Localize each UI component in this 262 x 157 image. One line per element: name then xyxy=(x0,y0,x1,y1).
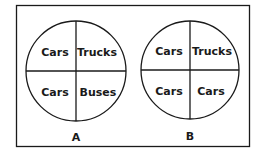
quadrant-b-top-right: Trucks xyxy=(192,45,232,58)
quadrant-a-bottom-left: Cars xyxy=(41,86,69,99)
quadrant-b-bottom-right: Cars xyxy=(197,85,225,98)
diagram-canvas: Cars Trucks Cars Buses A Cars Trucks Car… xyxy=(0,0,262,157)
caption-b: B xyxy=(186,130,194,143)
quadrant-b-bottom-left: Cars xyxy=(155,85,183,98)
quadrant-a-top-left: Cars xyxy=(41,46,69,59)
quadrant-a-bottom-right: Buses xyxy=(80,86,117,99)
quadrant-a-top-right: Trucks xyxy=(77,46,117,59)
frame xyxy=(17,6,250,147)
caption-a: A xyxy=(72,131,81,144)
quadrant-b-top-left: Cars xyxy=(155,45,183,58)
